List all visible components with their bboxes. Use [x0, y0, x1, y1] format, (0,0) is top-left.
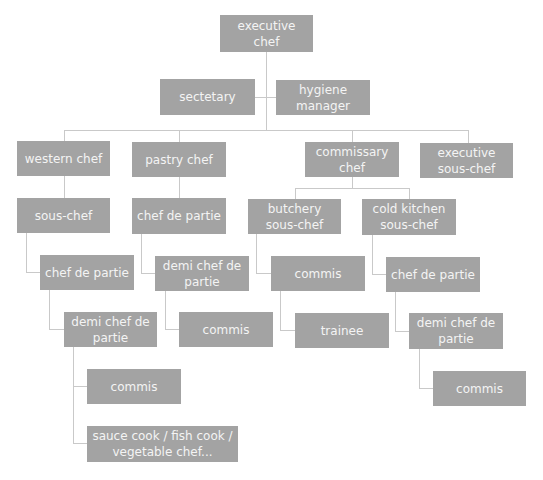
node-cold-kitchen-sous-chef: cold kitchen sous-chef: [362, 199, 456, 235]
connector: [49, 329, 64, 330]
connector: [256, 273, 271, 274]
connector: [372, 274, 386, 275]
connector: [395, 331, 409, 332]
connector: [280, 291, 281, 331]
connector: [468, 130, 469, 143]
node-cold-chef-de-partie: chef de partie: [386, 257, 480, 292]
connector: [165, 291, 166, 330]
node-western-chef-de-partie: chef de partie: [40, 255, 134, 290]
connector: [165, 329, 179, 330]
node-western-sous-chef: sous-chef: [17, 198, 110, 233]
node-butchery-commis: commis: [271, 256, 365, 291]
node-pastry-demi-chef: demi chef de partie: [155, 256, 249, 291]
node-western-stations: sauce cook / fish cook / vegetable chef.…: [87, 426, 238, 462]
node-secretary: sectetary: [160, 79, 255, 115]
connector: [409, 188, 410, 199]
connector: [352, 130, 353, 142]
node-butchery-trainee: trainee: [295, 313, 389, 348]
connector: [64, 130, 65, 141]
connector: [73, 443, 87, 444]
node-western-demi-chef: demi chef de partie: [64, 312, 157, 347]
connector: [419, 388, 433, 389]
connector: [141, 273, 155, 274]
node-hygiene-manager: hygiene manager: [276, 80, 370, 115]
connector: [49, 290, 50, 330]
connector: [26, 272, 40, 273]
node-cold-commis: commis: [433, 371, 526, 406]
connector: [256, 234, 257, 274]
connector: [73, 347, 74, 444]
connector: [280, 330, 295, 331]
connector: [26, 233, 27, 273]
node-commissary-chef: commissary chef: [305, 142, 399, 177]
connector: [179, 177, 180, 198]
node-cold-demi-chef: demi chef de partie: [409, 313, 503, 349]
connector: [395, 292, 396, 331]
connector: [295, 188, 410, 189]
connector: [64, 176, 65, 198]
node-butchery-sous-chef: butchery sous-chef: [248, 199, 341, 234]
connector: [141, 234, 142, 274]
connector: [179, 130, 180, 142]
node-pastry-chef: pastry chef: [132, 142, 226, 177]
node-western-chef: western chef: [17, 141, 110, 176]
node-western-commis: commis: [87, 369, 181, 404]
node-executive-chef: executive chef: [220, 15, 313, 52]
connector: [64, 130, 469, 131]
connector: [255, 97, 276, 98]
connector: [73, 386, 87, 387]
node-pastry-chef-de-partie: chef de partie: [132, 198, 226, 234]
connector: [266, 52, 267, 130]
connector: [419, 349, 420, 389]
connector: [295, 188, 296, 199]
connector: [372, 235, 373, 275]
node-pastry-commis: commis: [179, 312, 273, 347]
connector: [352, 177, 353, 188]
node-executive-sous-chef: executive sous-chef: [420, 143, 513, 178]
